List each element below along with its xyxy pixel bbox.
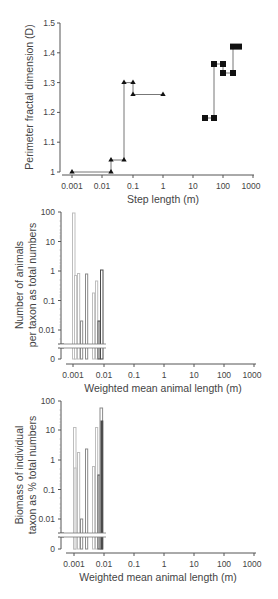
square-markers [202,44,242,121]
x-tick-labels: 0.001 0.01 0.1 1 10 100 1000 [63,559,261,569]
x-tick-label: 1 [162,370,167,380]
y-axis-title: Perimeter fractal dimension (D) [23,24,35,169]
y-tick-label: 1 [50,167,55,177]
x-tick-label: 0.1 [128,559,140,569]
x-tick-labels: 0.001 0.01 0.1 1 10 100 1000 [62,370,261,380]
y-tick-label: 1.1 [43,137,55,147]
x-tick-label: 0.001 [61,181,83,191]
y-axis-title-line2: per taxon as total numbers [26,223,38,347]
y-tick-label: 100 [41,396,55,406]
y-tick-label: 1.3 [43,78,55,88]
x-tick-label: 0.1 [128,370,140,380]
bar [101,421,103,549]
x-tick-label: 1000 [243,559,262,569]
y-tick-label: 0.01 [38,325,55,335]
figure: 1 1.1 1.2 1.3 1.4 1.5 Perimeter fractal … [0,0,278,599]
x-tick-label: 100 [216,181,230,191]
bars [73,213,104,359]
x-tick-label: 100 [217,370,231,380]
axis-break-band [60,533,106,537]
panel-biomass: 100 10 1 0.1 0.01 0 Biomass of individua… [13,396,262,583]
x-tick-label: 0.01 [94,181,111,191]
y-axis-title-line2: taxon as % total numbers [26,416,38,534]
x-tick-label: 0.01 [96,370,113,380]
series-triangles [69,80,165,174]
y-tick-label: 10 [46,425,56,435]
y-tick-label: 0.1 [43,296,55,306]
y-tick-label: 0.01 [38,514,55,524]
x-tick-label: 0.1 [127,181,139,191]
bars [74,408,103,549]
x-axis-title: Weighted mean animal length (m) [79,571,236,583]
x-tick-label: 100 [217,559,231,569]
bar [96,428,98,550]
x-tick-label: 0.001 [62,370,84,380]
y-axis-title-line1: Number of animals [13,241,25,329]
y-tick-label: 1.2 [43,107,55,117]
bar [81,321,83,359]
x-tick-label: 0.001 [63,559,85,569]
y-tick-label: 1.4 [43,48,55,58]
triangle-markers [69,80,165,174]
y-tick-label: 0 [50,544,55,554]
x-tick-label: 1 [161,181,166,191]
y-tick-labels: 1 1.1 1.2 1.3 1.4 1.5 [43,18,55,177]
x-tick-labels: 0.001 0.01 0.1 1 10 100 1000 [61,181,260,191]
y-tick-label: 100 [41,207,55,217]
x-axis-title: Step length (m) [127,193,199,205]
x-tick-label: 10 [189,559,199,569]
axis-break-band [60,344,106,348]
x-tick-label: 1000 [243,370,262,380]
x-axis-title: Weighted mean animal length (m) [84,382,241,394]
x-tick-label: 10 [189,370,199,380]
x-tick-label: 1 [162,559,167,569]
y-tick-label: 1 [50,266,55,276]
y-axis-title-line1: Biomass of individual [13,426,25,525]
y-tick-labels: 100 10 1 0.1 0.01 0 [38,396,55,554]
panel-fractal-dimension: 1 1.1 1.2 1.3 1.4 1.5 Perimeter fractal … [23,18,261,205]
x-tick-label: 0.01 [96,559,113,569]
bar [98,321,100,359]
panel-number-of-animals: 100 10 1 0.1 0.01 0 Number of animals pe… [13,207,262,394]
y-tick-label: 1.5 [43,18,55,28]
series-squares [202,44,242,121]
y-tick-label: 0.1 [43,485,55,495]
bar [93,293,95,359]
y-tick-label: 10 [46,237,56,247]
y-tick-label: 1 [50,455,55,465]
y-tick-label: 0 [50,354,55,364]
y-tick-labels: 100 10 1 0.1 0.01 0 [38,207,55,364]
x-tick-label: 10 [188,181,198,191]
x-tick-label: 1000 [242,181,261,191]
